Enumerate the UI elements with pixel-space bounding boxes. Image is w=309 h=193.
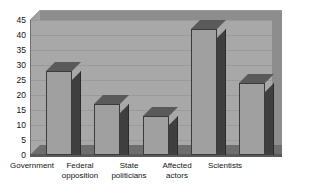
bar-side-face	[217, 29, 226, 155]
bar-top-face	[94, 95, 129, 105]
y-axis-tick-label: 45	[17, 16, 26, 24]
y-axis-tick-label: 0	[21, 151, 26, 159]
bar-scientists[interactable]	[239, 83, 265, 155]
bar-front-face	[239, 83, 265, 155]
bar-top-face	[191, 20, 226, 30]
bar-top-face	[239, 74, 274, 84]
y-axis-tick-label: 20	[17, 91, 26, 99]
bar-side-face	[120, 104, 129, 155]
bar-front-face	[191, 29, 217, 155]
bar-front-face	[46, 71, 72, 155]
y-axis-tick-label: 10	[17, 121, 26, 129]
bar-front-face	[143, 116, 169, 155]
bar-affected-actors[interactable]	[191, 29, 217, 155]
bar-side-face	[265, 83, 274, 155]
x-axis-labels: GovernmentFederal oppositionState politi…	[0, 161, 309, 193]
bar-government[interactable]	[46, 71, 72, 155]
bar-side-face	[169, 116, 178, 155]
y-axis-tick-label: 30	[17, 61, 26, 69]
y-axis-tick-label: 40	[17, 31, 26, 39]
bar-series	[31, 10, 281, 157]
x-axis-label-scientists: Scientists	[187, 161, 263, 171]
y-axis-tick-label: 35	[17, 46, 26, 54]
bar-federal-opposition[interactable]	[94, 104, 120, 155]
bar-top-face	[143, 107, 178, 117]
y-axis-tick-label: 15	[17, 106, 26, 114]
bar-state-politicians[interactable]	[143, 116, 169, 155]
bar-chart: 454035302520151050 GovernmentFederal opp…	[0, 0, 309, 193]
bar-front-face	[94, 104, 120, 155]
bar-top-face	[46, 62, 81, 72]
bar-side-face	[72, 71, 81, 155]
y-axis-tick-label: 5	[21, 136, 26, 144]
y-axis-tick-label: 25	[17, 76, 26, 84]
